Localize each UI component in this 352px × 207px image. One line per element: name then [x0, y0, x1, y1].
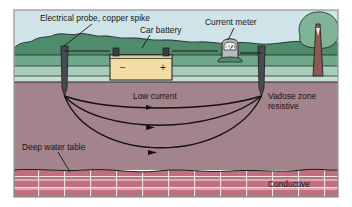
- label-low-current: Low current: [133, 91, 177, 101]
- scene: – +: [14, 10, 338, 197]
- battery-positive-terminal: [163, 48, 169, 56]
- battery-minus-sign: –: [120, 62, 125, 72]
- diagram-canvas: – +: [0, 0, 352, 207]
- left-electrical-probe: [61, 46, 68, 96]
- label-car-battery: Car battery: [140, 25, 182, 35]
- left-probe-spike: [61, 46, 68, 96]
- meter-base-mound: [218, 57, 242, 62]
- label-current-meter: Current meter: [205, 17, 257, 27]
- label-vadose-zone-line1: Vadose zone: [268, 91, 317, 101]
- battery-negative-terminal: [113, 48, 119, 56]
- label-vadose-zone-line2: resistive: [268, 101, 299, 111]
- resistivity-diagram-figure: – +: [0, 0, 352, 207]
- label-deep-water-table: Deep water table: [22, 142, 86, 152]
- label-conductive: Conductive: [268, 179, 310, 189]
- label-electrical-probe: Electrical probe, copper spike: [40, 13, 150, 23]
- battery-plus-sign: +: [160, 62, 166, 73]
